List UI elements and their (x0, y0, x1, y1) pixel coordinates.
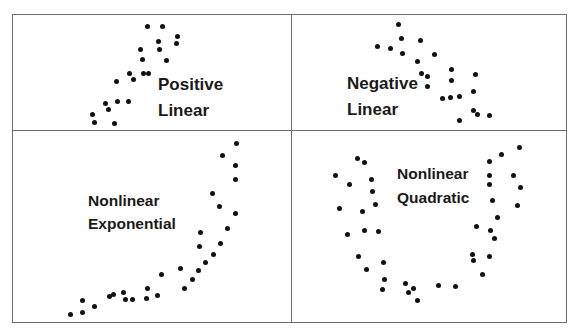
data-point (103, 101, 108, 106)
data-point (457, 94, 462, 99)
data-point (164, 58, 169, 63)
data-point (373, 202, 378, 207)
data-point (370, 189, 375, 194)
data-point (160, 24, 165, 29)
data-point (347, 182, 352, 187)
data-point (425, 84, 430, 89)
panel-label-line1: Positive (158, 76, 223, 93)
panel-label-line1: Nonlinear (397, 166, 468, 182)
data-point (487, 159, 492, 164)
scatter-types-figure: Positive Linear Negative Linear Nonlinea… (0, 0, 580, 335)
data-point (356, 254, 361, 259)
data-point (218, 241, 223, 246)
data-point (80, 310, 85, 315)
data-point (112, 121, 117, 126)
data-point (210, 191, 215, 196)
data-point (471, 258, 476, 263)
vertical-divider (291, 14, 293, 323)
data-point (141, 71, 146, 76)
data-point (457, 118, 462, 123)
data-point (403, 281, 408, 286)
data-point (448, 95, 453, 100)
data-point (396, 22, 401, 27)
data-point (217, 204, 222, 209)
data-point (471, 89, 476, 94)
data-point (380, 287, 385, 292)
data-point (487, 254, 492, 259)
panel-label-line1: Negative (347, 75, 418, 92)
data-point (127, 71, 132, 76)
data-point (388, 46, 393, 51)
data-point (203, 260, 208, 265)
data-point (488, 228, 493, 233)
data-point (360, 209, 365, 214)
data-point (449, 67, 454, 72)
data-point (126, 99, 131, 104)
data-point (470, 252, 475, 257)
data-point (156, 39, 161, 44)
panel-label-line2: Linear (158, 102, 209, 119)
data-point (411, 286, 416, 291)
data-point (157, 47, 162, 52)
data-point (432, 52, 437, 57)
data-point (487, 173, 492, 178)
data-point (198, 230, 203, 235)
data-point (436, 283, 441, 288)
data-point (518, 185, 523, 190)
data-point (492, 236, 497, 241)
data-point (182, 286, 187, 291)
data-point (474, 224, 479, 229)
data-point (419, 71, 424, 76)
figure-frame (12, 14, 567, 323)
data-point (197, 244, 202, 249)
data-point (211, 252, 216, 257)
data-point (138, 47, 143, 52)
data-point (145, 24, 150, 29)
data-point (369, 177, 374, 182)
data-point (178, 266, 183, 271)
data-point (490, 198, 495, 203)
data-point (487, 113, 492, 118)
panel-label-line2: Exponential (88, 216, 176, 232)
data-point (337, 206, 342, 211)
data-point (440, 96, 445, 101)
data-point (174, 41, 179, 46)
data-point (121, 290, 126, 295)
horizontal-divider (12, 130, 567, 132)
data-point (425, 74, 430, 79)
data-point (234, 141, 239, 146)
data-point (399, 36, 404, 41)
data-point (364, 267, 369, 272)
data-point (449, 78, 454, 83)
data-point (233, 163, 238, 168)
data-point (155, 293, 160, 298)
data-point (123, 297, 128, 302)
data-point (106, 107, 111, 112)
data-point (376, 229, 381, 234)
data-point (355, 156, 360, 161)
panel-label-line2: Linear (347, 101, 398, 118)
data-point (381, 260, 386, 265)
panel-label-line1: Nonlinear (88, 193, 159, 209)
data-point (131, 77, 136, 82)
data-point (90, 112, 95, 117)
data-point (475, 112, 480, 117)
data-point (175, 34, 180, 39)
panel-label-line2: Quadratic (397, 190, 469, 206)
data-point (333, 173, 338, 178)
data-point (220, 153, 225, 158)
data-point (418, 38, 423, 43)
data-point (415, 298, 420, 303)
data-point (190, 277, 195, 282)
data-point (480, 272, 485, 277)
data-point (375, 44, 380, 49)
data-point (499, 152, 504, 157)
data-point (92, 120, 97, 125)
data-point (345, 232, 350, 237)
data-point (140, 57, 145, 62)
data-point (453, 284, 458, 289)
data-point (145, 286, 150, 291)
data-point (146, 71, 151, 76)
data-point (517, 145, 522, 150)
data-point (130, 297, 135, 302)
